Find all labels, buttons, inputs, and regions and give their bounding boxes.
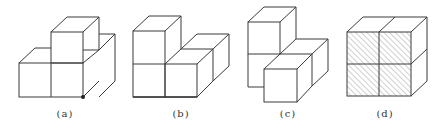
figure-a: [19, 17, 115, 99]
cube-figures-diagram: (a) (b) (c) (d): [0, 0, 443, 130]
figure-d-label: (d): [376, 108, 393, 119]
figure-a-label: (a): [57, 108, 74, 119]
figure-d: [347, 17, 427, 96]
corner-dot: [81, 95, 85, 99]
figure-c: [248, 7, 328, 102]
figure-b: [133, 16, 229, 97]
figure-b-label: (b): [172, 108, 189, 119]
figure-c-label: (c): [280, 108, 296, 119]
